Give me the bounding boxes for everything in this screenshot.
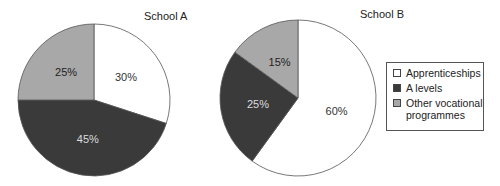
slice-label: 25% — [247, 98, 269, 110]
legend-swatch-grey — [393, 99, 401, 107]
slice-label: 25% — [55, 66, 77, 78]
legend-item-apprenticeships: Apprenticeships — [393, 67, 483, 79]
legend-swatch-dark — [393, 84, 401, 92]
legend-swatch-white — [393, 69, 401, 77]
legend-item-other-vocational: Other vocational programmes — [393, 97, 483, 121]
legend: Apprenticeships A levels Other vocationa… — [386, 62, 484, 131]
chart-title-school-a: School A — [144, 10, 187, 22]
pie-slice — [18, 24, 94, 100]
slice-label: 45% — [77, 133, 99, 145]
slice-label: 30% — [115, 71, 137, 83]
chart-title-school-b: School B — [360, 8, 404, 20]
legend-item-a-levels: A levels — [393, 82, 483, 94]
slice-label: 60% — [326, 105, 348, 117]
slice-label: 15% — [269, 56, 291, 68]
